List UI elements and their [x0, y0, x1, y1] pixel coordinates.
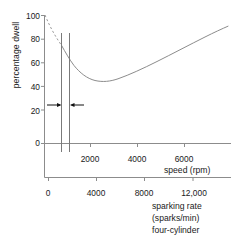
spark-tick-marks [49, 178, 194, 182]
dimension-arrows [47, 103, 84, 107]
dwell-curve [62, 26, 229, 81]
plot-canvas [0, 0, 234, 240]
chart-figure: percentage dwell 100 80 60 40 20 0 2000 … [0, 0, 234, 240]
y-tick-marks [41, 16, 45, 144]
dwell-curve-dashed-segment [45, 15, 62, 45]
speed-tick-marks [91, 144, 185, 148]
